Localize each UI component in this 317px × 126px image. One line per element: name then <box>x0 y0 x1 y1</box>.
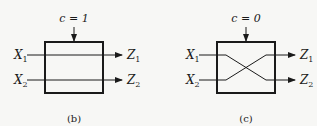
caption-b: (b) <box>67 113 81 124</box>
output-label-z2-c: Z2 <box>299 73 313 89</box>
diagram-b: c = 1 X1 X2 Z1 Z2 (b) <box>13 12 140 124</box>
control-label-b: c = 1 <box>59 12 88 25</box>
input-label-x2-c: X2 <box>185 73 200 89</box>
output-label-z2-b: Z2 <box>126 73 140 89</box>
control-label-c: c = 0 <box>231 12 260 25</box>
diagram-c: c = 0 X1 X2 Z1 Z2 (c) <box>185 12 313 124</box>
wire-x2-z1-c <box>199 55 295 80</box>
output-label-z1-b: Z1 <box>126 48 140 64</box>
input-label-x1-c: X1 <box>185 48 200 64</box>
switch-box-b <box>45 42 103 93</box>
output-label-z1-c: Z1 <box>299 48 313 64</box>
switch-diagrams: c = 1 X1 X2 Z1 Z2 (b) c = 0 X1 X2 Z1 Z2 … <box>0 0 317 126</box>
wire-x1-z2-c <box>199 55 295 80</box>
caption-c: (c) <box>239 113 253 124</box>
input-label-x1-b: X1 <box>13 48 28 64</box>
input-label-x2-b: X2 <box>13 73 28 89</box>
